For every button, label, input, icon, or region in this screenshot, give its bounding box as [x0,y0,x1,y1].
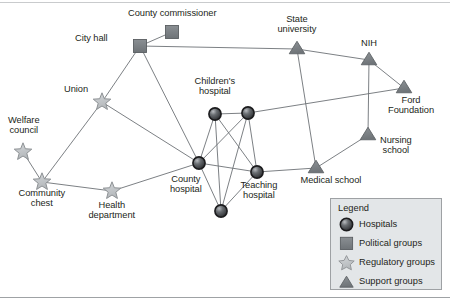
node-union[interactable] [93,93,111,110]
edge [248,113,257,172]
node-childrens_hospital[interactable] [209,108,221,120]
diagram-canvas: County commissionerCity hallState univer… [0,0,450,306]
node-teaching_hospital[interactable] [251,166,263,178]
node-city_hall[interactable] [134,40,147,53]
edge [248,88,404,113]
node-health_department[interactable] [103,182,121,199]
node-label-teaching_hospital: Teaching hospital [241,180,278,201]
legend-label-support: Support groups [359,276,423,286]
legend-label-hospitals: Hospitals [359,219,397,229]
node-welfare_council[interactable] [14,143,32,160]
node-label-union: Union [64,84,88,94]
node-county_hospital[interactable] [193,157,205,169]
edge [199,114,215,163]
legend-title: Legend [338,203,369,213]
node-label-city_hall: City hall [75,33,108,43]
node-label-childrens_hospital: Children's hospital [195,76,236,97]
node-medical_school[interactable] [308,160,324,173]
legend-item-support: Support groups [337,272,441,290]
node-label-welfare_council: Welfare council [8,115,40,136]
node-county_commissioner[interactable] [166,26,179,39]
legend-label-political: Political groups [359,238,422,248]
legend-item-political: Political groups [337,234,441,252]
node-label-county_commissioner: County commissioner [128,8,216,18]
edge [297,49,369,60]
support-triangle-icon [337,273,356,290]
legend-label-regulatory: Regulatory groups [359,257,435,267]
node-label-nursing_school: Nursing school [380,135,412,156]
node-hospital_b[interactable] [242,107,254,119]
edge [215,114,257,172]
edge [42,102,102,182]
node-label-state_university: State university [278,14,317,35]
node-state_university[interactable] [289,41,305,54]
node-nursing_school[interactable] [360,127,376,140]
political-square-icon [337,235,356,252]
node-ford_foundation[interactable] [396,80,412,93]
edge [215,114,221,211]
edge [368,60,369,135]
edge [140,46,297,49]
node-label-ford_foundation: Ford Foundation [388,95,434,116]
edge [102,102,199,163]
node-label-health_department: Health department [89,200,136,221]
bottom-divider-rule [0,297,450,298]
edge [102,46,140,102]
legend-item-regulatory: Regulatory groups [337,253,441,271]
node-label-county_hospital: County hospital [170,174,202,195]
node-label-community_chest: Community chest [19,188,66,209]
edge [140,46,199,163]
node-community_chest[interactable] [33,173,51,190]
edge [297,49,316,168]
hospital-circle-icon [337,216,356,233]
edge [199,163,221,211]
node-nih[interactable] [361,52,377,65]
edge [257,168,316,172]
legend-item-hospitals: Hospitals [337,215,441,233]
node-label-medical_school: Medical school [301,175,362,185]
regulatory-star-icon [337,254,356,271]
node-label-nih: NIH [361,38,377,48]
legend-box: Legend Hospitals Political groups [330,198,442,290]
edge [199,163,257,172]
node-hospital_e[interactable] [215,205,227,217]
